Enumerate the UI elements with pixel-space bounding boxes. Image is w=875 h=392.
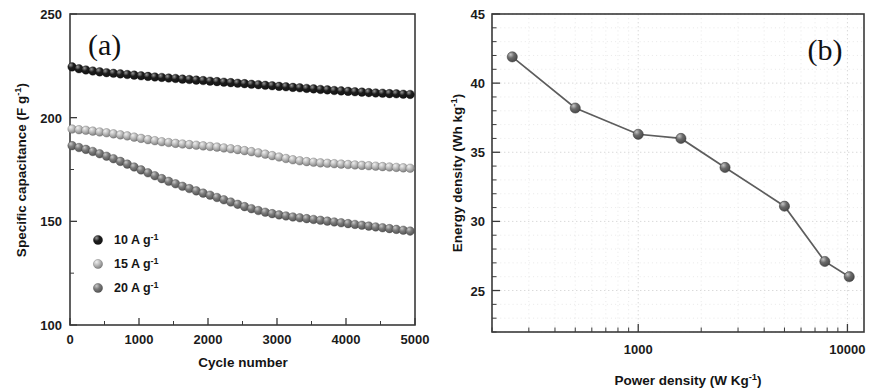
panel-a-legend-item-1: 15 A g-1 [93,256,158,271]
data-point [406,90,415,99]
legend-marker-icon [93,283,102,292]
panel-a-x-tick-label: 0 [66,332,73,347]
panel-b-y-tick-label: 35 [471,145,485,160]
panel-a-legend-label: 15 A g-1 [114,256,159,271]
panel-a-series-2 [68,141,415,235]
panel-b-x-axis-title: Power density (W Kg-1) [614,371,761,388]
panel-a-legend-label: 20 A g-1 [114,280,159,295]
panel-a-x-tick-label: 4000 [332,332,361,347]
data-point [779,201,789,211]
panel-b-x-tick-label: 10000 [829,342,865,357]
data-point [633,129,643,139]
data-point [844,272,854,282]
panel-b-series-line [512,57,849,277]
panel-a-y-tick-label: 200 [40,111,62,126]
data-point [676,133,686,143]
panel-a-legend: 10 A g-115 A g-120 A g-1 [93,232,158,295]
panel-a-series-0 [68,63,415,99]
data-point [507,52,517,62]
panel-b-ragone-plot: Energy density (Wh kg-1) Power density (… [440,0,875,392]
panel-b-y-tick-label: 30 [471,214,485,229]
panel-b-y-axis-title-group: Energy density (Wh kg-1) [448,94,465,252]
panel-b-y-axis-title: Energy density (Wh kg-1) [448,94,465,252]
panel-b-data-series [507,52,854,282]
data-point [720,162,730,172]
legend-marker-icon [93,235,102,244]
legend-marker-icon [93,259,102,268]
data-point [820,256,830,266]
panel-a-x-ticks: 010002000300040005000 [66,318,429,347]
panel-a-legend-label: 10 A g-1 [114,232,159,247]
panel-b-y-tick-label: 25 [471,284,485,299]
data-point [406,227,415,236]
panel-b-label: (b) [808,33,843,67]
panel-a-y-tick-label: 100 [40,318,62,333]
data-point [570,103,580,113]
panel-a-x-tick-label: 2000 [194,332,223,347]
panel-a-y-axis-title: Specific capacitance (F g-1) [12,83,29,257]
panel-b-y-tick-label: 40 [471,76,485,91]
panel-a-y-tick-label: 250 [40,7,62,22]
panel-a-label: (a) [88,28,121,62]
panel-a-legend-item-2: 20 A g-1 [93,280,158,295]
panel-b-x-tick-label: 1000 [624,342,653,357]
panel-b-x-ticks: 100010000 [492,324,866,357]
panel-a-y-ticks: 100150200250 [40,7,77,333]
panel-b-plot: Energy density (Wh kg-1) Power density (… [440,0,875,392]
panel-a-plot: 100150200250 010002000300040005000 (a) 1… [0,0,440,392]
panel-a-x-axis-title: Cycle number [198,355,288,370]
panel-a-data-series [68,63,415,236]
panel-a-legend-item-0: 10 A g-1 [93,232,158,247]
panel-a-x-tick-label: 3000 [263,332,292,347]
panel-b-y-tick-label: 45 [471,7,485,22]
figure-container: 100150200250 010002000300040005000 (a) 1… [0,0,875,392]
data-point [406,164,415,173]
panel-b-y-ticks: 2530354045 [471,7,500,332]
panel-a-x-tick-label: 1000 [125,332,154,347]
panel-a-x-tick-label: 5000 [401,332,430,347]
panel-a-y-tick-label: 150 [40,214,62,229]
panel-a-specific-capacitance: 100150200250 010002000300040005000 (a) 1… [0,0,440,392]
panel-a-y-axis-title-group: Specific capacitance (F g-1) [12,83,29,257]
